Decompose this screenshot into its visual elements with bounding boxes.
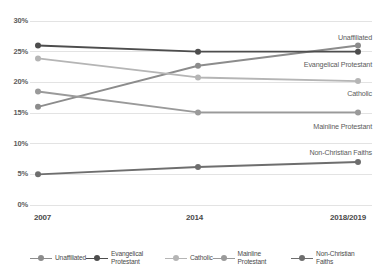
- x-axis-tick-label: 2007: [34, 213, 51, 222]
- series-end-label: Unaffiliated: [338, 33, 372, 42]
- data-point-marker: [35, 104, 41, 110]
- legend-label: Mainline Protestant: [238, 250, 292, 265]
- x-axis-tick-label: 2018/2019: [330, 213, 366, 222]
- data-point-marker: [195, 109, 201, 115]
- data-point-marker: [355, 78, 361, 84]
- legend-label: Non-Christian Faiths: [316, 250, 370, 265]
- x-axis-tick-label: 2014: [186, 213, 203, 222]
- chart-plot-area: [0, 0, 378, 273]
- y-axis-tick-label: 5%: [2, 169, 28, 178]
- series-end-label: Catholic: [347, 89, 372, 98]
- legend-item[interactable]: Unaffiliated: [30, 254, 86, 263]
- legend-marker-icon: [86, 254, 108, 263]
- line-chart: 0%5%10%15%20%25%30% 200720142018/2019 Un…: [0, 0, 378, 273]
- data-point-marker: [195, 164, 201, 170]
- legend-marker-icon: [30, 254, 52, 263]
- legend-label: Unaffiliated: [55, 254, 86, 262]
- y-axis-tick-label: 0%: [2, 200, 28, 209]
- legend-item[interactable]: Non-Christian Faiths: [291, 250, 370, 265]
- series-end-label: Non-Christian Faiths: [309, 148, 372, 157]
- chart-legend: UnaffiliatedEvangelical ProtestantCathol…: [30, 246, 370, 270]
- legend-item[interactable]: Mainline Protestant: [213, 250, 292, 265]
- data-point-marker: [195, 49, 201, 55]
- y-axis-tick-label: 10%: [2, 139, 28, 148]
- data-point-marker: [35, 89, 41, 95]
- legend-marker-icon: [165, 254, 187, 263]
- y-axis-tick-label: 15%: [2, 108, 28, 117]
- y-axis-tick-label: 30%: [2, 16, 28, 25]
- data-point-marker: [35, 43, 41, 49]
- legend-item[interactable]: Catholic: [165, 254, 213, 263]
- legend-marker-icon: [213, 254, 235, 263]
- legend-label: Catholic: [190, 254, 213, 262]
- data-point-marker: [195, 74, 201, 80]
- data-point-marker: [355, 49, 361, 55]
- legend-item[interactable]: Evangelical Protestant: [86, 250, 165, 265]
- y-axis-tick-label: 25%: [2, 47, 28, 56]
- data-point-marker: [355, 159, 361, 165]
- y-axis-tick-label: 20%: [2, 77, 28, 86]
- legend-label: Evangelical Protestant: [111, 250, 165, 265]
- series-end-label: Evangelical Protestant: [304, 60, 372, 69]
- data-point-marker: [35, 55, 41, 61]
- series-end-label: Mainline Protestant: [313, 122, 372, 131]
- data-point-marker: [35, 171, 41, 177]
- data-point-marker: [355, 109, 361, 115]
- legend-marker-icon: [291, 254, 313, 263]
- data-point-marker: [195, 63, 201, 69]
- data-point-marker: [355, 43, 361, 49]
